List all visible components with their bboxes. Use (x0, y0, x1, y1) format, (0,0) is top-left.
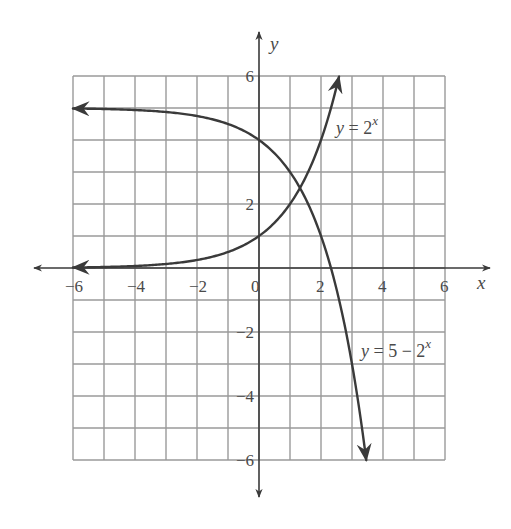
x-tick-label: 0 (251, 277, 260, 296)
x-axis-label: x (476, 272, 486, 293)
x-tick-label: −2 (189, 277, 207, 296)
x-tick-label: −6 (65, 277, 83, 296)
y-tick-label: −6 (236, 451, 254, 470)
x-tick-label: 4 (378, 277, 387, 296)
x-tick-label: 2 (316, 277, 325, 296)
exponential-graph: xy −6−4−20246−6−4−226 y = 2xy = 5 − 2x (0, 0, 511, 529)
y-tick-label: −4 (236, 387, 255, 406)
label-2-pow-x: y = 2x (334, 113, 378, 138)
y-tick-label: −2 (236, 323, 254, 342)
x-tick-label: 6 (440, 277, 449, 296)
axes: xy (34, 32, 490, 497)
label-5-minus-2-pow-x: y = 5 − 2x (359, 336, 431, 361)
y-axis-label: y (268, 33, 279, 54)
y-tick-label: 6 (246, 67, 255, 86)
y-tick-label: 2 (246, 195, 255, 214)
x-tick-label: −4 (127, 277, 146, 296)
